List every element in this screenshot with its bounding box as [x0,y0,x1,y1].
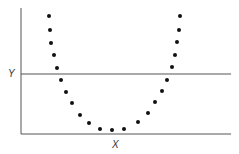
y-label: Y [8,68,15,79]
data-point [49,41,53,45]
data-point [78,113,82,117]
data-point [122,127,126,131]
data-point [52,53,56,57]
data-point [110,128,114,132]
data-point [146,111,150,115]
data-point [136,120,140,124]
x-label: X [112,139,119,150]
data-point [177,28,181,32]
data-point [98,127,102,131]
data-point [70,101,74,105]
data-point [48,28,52,32]
u-curve-scatter-chart: Y X [0,0,239,154]
scatter-points [47,14,182,132]
plot-area [0,0,239,154]
data-point [59,78,63,82]
data-point [178,14,182,18]
data-point [173,53,177,57]
data-point [170,65,174,69]
data-point [64,90,68,94]
data-point [165,78,169,82]
data-point [160,89,164,93]
data-point [47,14,51,18]
data-point [87,121,91,125]
data-point [55,66,59,70]
data-point [153,100,157,104]
data-point [175,40,179,44]
